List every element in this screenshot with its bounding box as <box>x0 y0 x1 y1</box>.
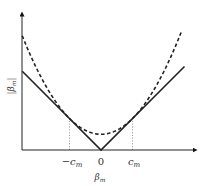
x-tick-label-cm: cm <box>128 156 141 169</box>
series-quadratic-upper-bound <box>22 32 181 134</box>
y-axis-label: |βm| <box>6 78 17 95</box>
chart: |βm| −cm 0 cm βm <box>0 0 200 186</box>
x-tick-label-neg-cm: −cm <box>62 156 83 169</box>
x-tick-label-zero: 0 <box>98 156 104 167</box>
x-axis-label: βm <box>94 172 106 183</box>
